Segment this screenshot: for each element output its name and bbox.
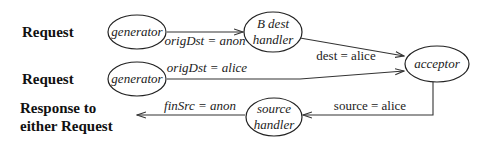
node-generator-2-label: generator (111, 71, 163, 86)
response-label-line1: Response to (20, 100, 96, 116)
node-acceptor: acceptor (405, 46, 469, 82)
node-generator-1: generator (108, 15, 166, 49)
response-label-line2: either Request (20, 118, 113, 134)
request-label-2: Request (22, 71, 74, 87)
request-label-1: Request (22, 24, 74, 40)
node-generator-2: generator (108, 62, 166, 96)
edge-label-gen1-to-bdest: origDst = anon (164, 33, 245, 48)
edge-label-gen2-to-acceptor: origDst = alice (167, 60, 247, 75)
node-source-handler-line2: handler (254, 117, 295, 132)
edge-label-acceptor-to-source: source = alice (334, 98, 407, 113)
node-generator-1-label: generator (111, 24, 163, 39)
edge-label-bdest-to-acceptor: dest = alice (316, 48, 376, 63)
node-b-dest-handler-line1: B dest (257, 16, 290, 31)
node-b-dest-handler-line2: handler (253, 32, 294, 47)
flow-diagram: Request Request Response to either Reque… (0, 0, 481, 143)
node-source-handler: source handler (246, 98, 302, 136)
edge-label-source-to-response: finSrc = anon (164, 98, 236, 113)
node-b-dest-handler: B dest handler (244, 12, 302, 52)
node-source-handler-line1: source (257, 101, 291, 116)
node-acceptor-label: acceptor (414, 56, 460, 71)
